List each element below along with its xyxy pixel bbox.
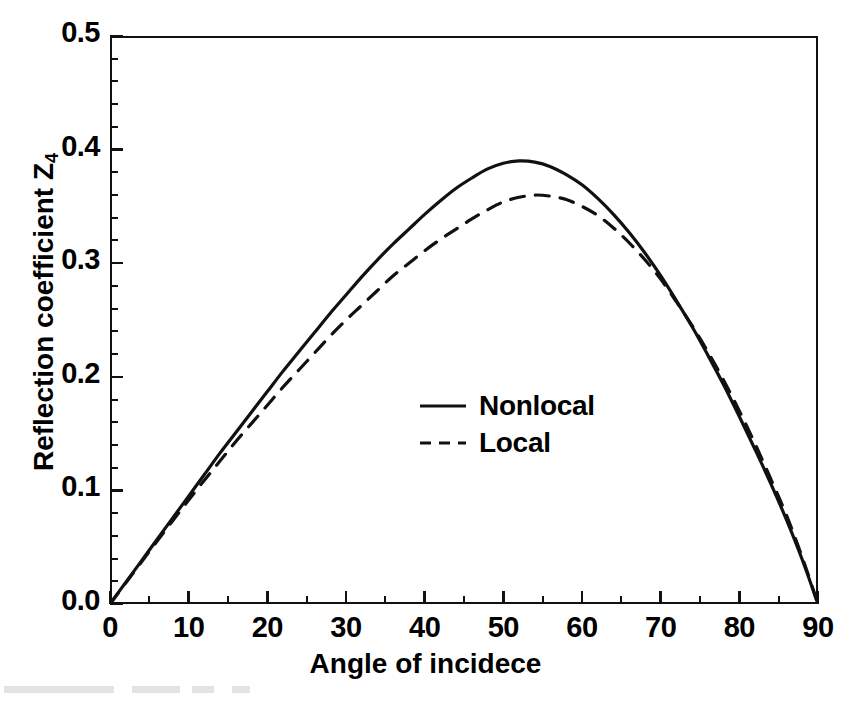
y-tick-minor: [110, 535, 118, 537]
x-tick-minor: [306, 596, 308, 604]
y-axis-title: Reflection coefficient Z4: [28, 32, 60, 592]
x-tick-major: [187, 591, 190, 604]
y-tick-minor: [110, 80, 118, 82]
y-tick-minor: [110, 399, 118, 401]
x-tick-minor: [699, 596, 701, 604]
x-tick-minor: [148, 596, 150, 604]
x-tick-label: 30: [301, 611, 391, 644]
y-tick-minor: [110, 330, 118, 332]
legend-item-local: Local: [419, 424, 669, 461]
legend-line-dashed-icon: [419, 436, 467, 450]
x-tick-major: [345, 591, 348, 604]
y-tick-minor: [110, 103, 118, 105]
x-tick-label: 0: [65, 611, 155, 644]
x-tick-minor: [542, 596, 544, 604]
y-tick-minor: [110, 512, 118, 514]
y-tick-minor: [110, 239, 118, 241]
y-tick-major: [110, 376, 123, 379]
y-tick-major: [110, 262, 123, 265]
x-tick-major: [738, 591, 741, 604]
legend-label-local: Local: [479, 429, 551, 457]
x-tick-major: [581, 591, 584, 604]
x-tick-label: 80: [694, 611, 784, 644]
y-tick-minor: [110, 421, 118, 423]
y-tick-minor: [110, 467, 118, 469]
y-tick-major: [110, 489, 123, 492]
legend-item-nonlocal: Nonlocal: [419, 387, 669, 424]
figure-container: 0.00.10.20.30.40.50102030405060708090 No…: [0, 0, 851, 707]
y-tick-minor: [110, 285, 118, 287]
legend-label-nonlocal: Nonlocal: [479, 392, 595, 420]
x-tick-major: [423, 591, 426, 604]
y-tick-minor: [110, 217, 118, 219]
x-tick-major: [266, 591, 269, 604]
y-tick-minor: [110, 558, 118, 560]
y-tick-minor: [110, 58, 118, 60]
x-tick-label: 70: [616, 611, 706, 644]
x-tick-label: 90: [773, 611, 851, 644]
x-tick-label: 50: [458, 611, 548, 644]
y-axis-title-subscript: 4: [42, 153, 62, 163]
x-tick-label: 60: [537, 611, 627, 644]
y-tick-minor: [110, 353, 118, 355]
scan-artifact: [4, 686, 304, 693]
y-tick-minor: [110, 171, 118, 173]
y-tick-minor: [110, 194, 118, 196]
x-tick-major: [659, 591, 662, 604]
x-tick-label: 10: [144, 611, 234, 644]
plot-frame: [110, 36, 818, 604]
x-tick-label: 20: [222, 611, 312, 644]
y-tick-major: [110, 35, 123, 38]
x-tick-label: 40: [380, 611, 470, 644]
x-tick-minor: [778, 596, 780, 604]
legend-line-solid-icon: [419, 399, 467, 413]
y-tick-minor: [110, 444, 118, 446]
x-axis-title-text: Angle of incidece: [310, 648, 542, 679]
x-tick-minor: [463, 596, 465, 604]
x-axis-title: Angle of incidece: [0, 648, 851, 680]
x-tick-minor: [620, 596, 622, 604]
x-tick-major: [109, 591, 112, 604]
y-tick-minor: [110, 126, 118, 128]
x-tick-minor: [384, 596, 386, 604]
y-tick-major: [110, 603, 123, 606]
y-axis-title-text: Reflection coefficient Z: [28, 163, 59, 471]
legend: Nonlocal Local: [419, 387, 669, 461]
x-tick-major: [817, 591, 820, 604]
y-tick-minor: [110, 308, 118, 310]
x-tick-minor: [227, 596, 229, 604]
x-tick-major: [502, 591, 505, 604]
y-tick-minor: [110, 580, 118, 582]
y-tick-major: [110, 148, 123, 151]
